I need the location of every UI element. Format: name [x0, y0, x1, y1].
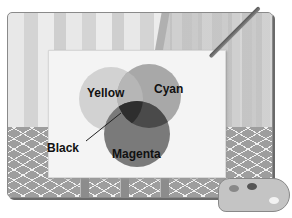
paint-dab	[247, 183, 257, 190]
paint-dab	[229, 185, 239, 192]
cyan-label: Cyan	[154, 82, 183, 96]
illustration-frame: Yellow Cyan Black Magenta	[7, 12, 273, 198]
black-label: Black	[47, 141, 79, 155]
paint-palette-icon	[218, 178, 290, 212]
magenta-label: Magenta	[112, 147, 161, 161]
easel-canvas: Yellow Cyan Black Magenta	[48, 50, 226, 178]
paint-dab	[269, 197, 279, 204]
yellow-label: Yellow	[87, 86, 124, 100]
